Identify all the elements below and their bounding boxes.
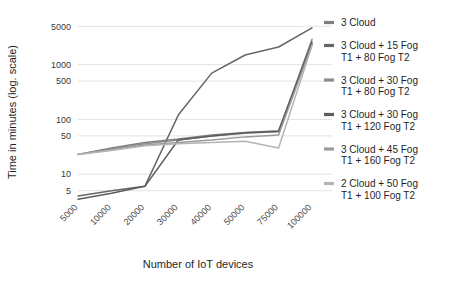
series-line-1 xyxy=(78,28,312,196)
legend-label-4: 3 Cloud + 45 Fog xyxy=(341,144,418,155)
legend-label-5-line2: T1 + 100 Fog T2 xyxy=(341,190,415,201)
y-axis-tick-label: 500 xyxy=(56,76,71,86)
x-axis-tick-label: 75000 xyxy=(255,202,280,227)
legend-label-3: 3 Cloud + 30 Fog xyxy=(341,109,418,120)
y-axis-tick-label: 1000 xyxy=(51,60,71,70)
x-axis-tick-label: 100000 xyxy=(285,202,313,230)
x-axis-tick-label: 10000 xyxy=(88,202,113,227)
y-axis-tick-label: 10 xyxy=(61,169,71,179)
chart-figure: 5000100050010050105 50001000020000300004… xyxy=(0,0,450,283)
y-axis-tick-label: 100 xyxy=(56,115,71,125)
series-line-3 xyxy=(78,42,312,199)
legend-label-0: 3 Cloud xyxy=(341,17,375,28)
legend-label-1-line2: T1 + 80 Fog T2 xyxy=(341,52,410,63)
y-axis-tick-label: 50 xyxy=(61,131,71,141)
y-axis-title: Time in minutes (log. scale) xyxy=(6,45,18,179)
y-axis-tick-label: 5000 xyxy=(51,22,71,32)
legend-label-1: 3 Cloud + 15 Fog xyxy=(341,40,418,51)
legend-label-4-line2: T1 + 160 Fog T2 xyxy=(341,155,415,166)
data-series-group xyxy=(78,28,312,199)
legend-label-3-line2: T1 + 120 Fog T2 xyxy=(341,121,415,132)
x-axis-tick-label: 30000 xyxy=(155,202,180,227)
x-axis-tick-label: 50000 xyxy=(222,202,247,227)
x-axis-title: Number of IoT devices xyxy=(143,258,254,270)
y-axis-tick-label: 5 xyxy=(66,186,71,196)
line-chart: 5000100050010050105 50001000020000300004… xyxy=(0,0,450,283)
x-axis-tick-label: 5000 xyxy=(58,202,79,223)
grid-lines xyxy=(78,26,332,190)
x-axis-tick-labels: 5000100002000030000400005000075000100000 xyxy=(58,202,313,230)
y-axis-tick-labels: 5000100050010050105 xyxy=(51,22,71,196)
legend-label-2: 3 Cloud + 30 Fog xyxy=(341,75,418,86)
legend-label-2-line2: T1 + 80 Fog T2 xyxy=(341,86,410,97)
x-axis-tick-label: 20000 xyxy=(122,202,147,227)
chart-legend: 3 Cloud3 Cloud + 15 FogT1 + 80 Fog T23 C… xyxy=(324,17,418,201)
legend-label-5: 2 Cloud + 50 Fog xyxy=(341,178,418,189)
x-axis-tick-label: 40000 xyxy=(188,202,213,227)
